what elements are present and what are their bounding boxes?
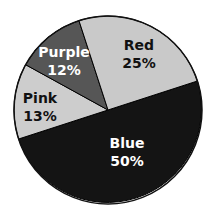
label-purple-name: Purple bbox=[38, 44, 89, 60]
label-blue-pct: 50% bbox=[110, 153, 144, 169]
label-pink-pct: 13% bbox=[23, 108, 57, 124]
label-pink-name: Pink bbox=[23, 90, 58, 106]
label-blue-name: Blue bbox=[110, 135, 145, 151]
pie-chart: Red 25% Purple 12% Pink 13% Blue 50% bbox=[0, 0, 212, 216]
label-purple-pct: 12% bbox=[47, 62, 81, 78]
label-red-name: Red bbox=[124, 37, 154, 53]
label-red-pct: 25% bbox=[122, 55, 156, 71]
